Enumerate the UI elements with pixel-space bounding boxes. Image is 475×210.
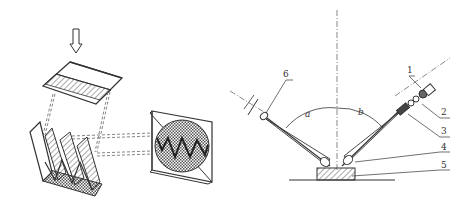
label-4: 4 <box>441 142 447 152</box>
label-2: 2 <box>441 107 447 117</box>
left-figure <box>30 29 212 196</box>
lamp-assembly <box>396 84 435 115</box>
diagram-canvas: a b 6 1 2 3 4 5 <box>0 0 475 210</box>
label-1: 1 <box>407 65 413 75</box>
ridged-surface <box>30 122 102 196</box>
angle-label-b: b <box>358 107 364 117</box>
slit-plate <box>43 62 122 104</box>
label-6: 6 <box>283 69 289 79</box>
label-3: 3 <box>441 126 447 136</box>
label-5: 5 <box>441 160 447 170</box>
right-figure: a b 6 1 2 3 4 5 <box>230 10 450 180</box>
viewing-screen <box>150 111 212 184</box>
specimen <box>317 168 355 180</box>
incident-light-arrow-icon <box>70 29 82 53</box>
angle-label-a: a <box>305 109 310 119</box>
angle-arc-a <box>286 108 337 128</box>
